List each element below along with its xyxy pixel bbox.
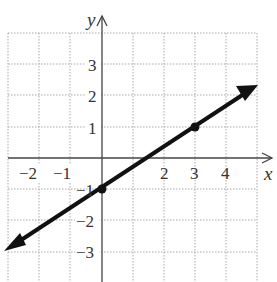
y-tick: −3 <box>76 243 94 262</box>
coordinate-plane: −2 −1 2 3 4 3 2 1 −1 −2 −3 x y <box>0 0 277 282</box>
left-arrowhead-icon <box>4 233 26 251</box>
y-tick: −1 <box>76 181 94 200</box>
x-tick: 4 <box>221 164 230 183</box>
y-tick: 3 <box>88 56 97 75</box>
x-tick: 2 <box>160 164 169 183</box>
axes <box>8 16 272 282</box>
y-axis-label: y <box>85 9 96 30</box>
y-tick: 1 <box>88 119 97 138</box>
x-axis-label: x <box>263 163 273 184</box>
point-0-neg1 <box>98 185 107 194</box>
y-tick: −2 <box>76 212 94 231</box>
x-tick: −2 <box>19 164 37 183</box>
x-tick: 3 <box>190 164 199 183</box>
tick-labels: −2 −1 2 3 4 3 2 1 −1 −2 −3 x y <box>16 9 273 262</box>
point-3-1 <box>191 123 200 132</box>
x-tick: −1 <box>53 164 71 183</box>
y-tick: 2 <box>88 87 97 106</box>
